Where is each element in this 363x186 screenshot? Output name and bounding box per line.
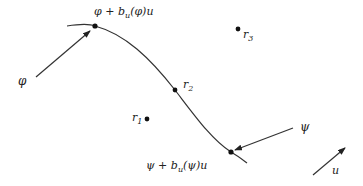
psi-shift-dot	[228, 149, 233, 154]
r3-label: r3	[243, 29, 253, 43]
psi-shift-label: ψ + bu(ψ)u	[146, 160, 207, 174]
r2-label: r2	[183, 79, 193, 93]
r1-dot	[145, 117, 150, 122]
u-direction-arrow	[313, 148, 345, 175]
psi-arrow	[235, 128, 293, 150]
r3-dot	[236, 27, 241, 32]
phi-shift-label: φ + bu(φ)u	[94, 6, 154, 20]
r1-label: r1	[132, 112, 142, 126]
psi-arrow-label: ψ	[300, 121, 309, 133]
phi-arrow-label: φ	[18, 75, 26, 87]
diagram-canvas: φ + bu(φ)u ψ + bu(ψ)u r1 r2 r3 φ ψ u	[0, 0, 363, 186]
u-arrow-label: u	[332, 165, 339, 176]
r2-dot	[173, 88, 178, 93]
phi-shift-dot	[92, 23, 97, 28]
phi-arrow	[36, 31, 90, 77]
trajectory-curve	[67, 25, 247, 164]
diagram-graphics	[0, 0, 363, 186]
